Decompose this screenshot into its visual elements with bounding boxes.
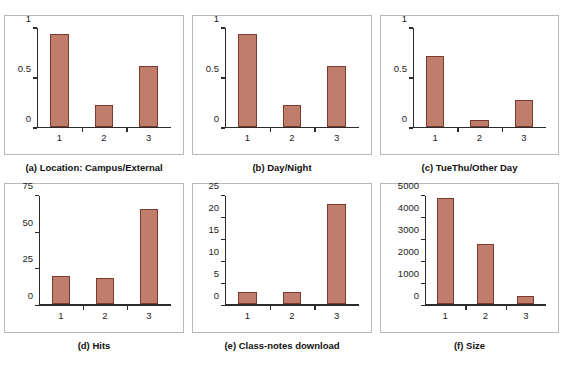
panel-e-ytick-label: 25 bbox=[208, 181, 219, 191]
bar bbox=[327, 66, 346, 127]
panel-d-x-axis bbox=[39, 304, 171, 305]
panel-d-xtick bbox=[83, 306, 84, 310]
panel-e-caption: (e) Class-notes download bbox=[192, 341, 372, 351]
panel-a-xtick bbox=[126, 128, 127, 132]
panel-c-xtick-label: 3 bbox=[521, 133, 526, 143]
panel-c-plot: 00.51123 bbox=[413, 28, 546, 128]
panel-d-ytick-label: 50 bbox=[22, 218, 33, 228]
bar bbox=[437, 198, 454, 304]
panel-a-xtick-label: 3 bbox=[146, 133, 151, 143]
panel-f-ytick-label: 3000 bbox=[398, 225, 419, 235]
panel-f-ytick bbox=[421, 239, 425, 240]
panel-f-xtick-label: 1 bbox=[443, 311, 448, 321]
panel-c-ytick bbox=[409, 127, 413, 128]
panel-f-ytick-label: 2000 bbox=[398, 247, 419, 257]
panel-c-xtick bbox=[502, 128, 503, 132]
panel-c-xtick bbox=[457, 128, 458, 132]
bar bbox=[283, 292, 302, 304]
panel-d-ytick-label: 25 bbox=[22, 255, 33, 265]
panel-b-x-axis bbox=[225, 127, 359, 128]
panel-e-ytick-label: 20 bbox=[208, 203, 219, 213]
panel-c-ytick bbox=[409, 27, 413, 28]
panel-a-ytick-label: 0 bbox=[26, 114, 31, 124]
panel-e-x-axis bbox=[225, 304, 359, 305]
panel-e-plot: 0510152025123 bbox=[225, 196, 359, 306]
panel-d: 0255075123 (d) Hits bbox=[0, 183, 188, 351]
bar bbox=[470, 120, 489, 127]
panel-e-y-axis bbox=[225, 196, 226, 306]
panel-f-y-axis bbox=[425, 196, 426, 306]
panel-e-ytick-label: 10 bbox=[208, 247, 219, 257]
panel-b-xtick-label: 3 bbox=[334, 133, 339, 143]
panel-e-ytick-label: 15 bbox=[208, 225, 219, 235]
bar bbox=[140, 209, 158, 305]
panel-d-xtick bbox=[127, 306, 128, 310]
panel-b-xtick bbox=[314, 128, 315, 132]
panel-e-xtick-label: 3 bbox=[334, 311, 339, 321]
panel-c-y-axis bbox=[413, 28, 414, 128]
bar bbox=[477, 244, 494, 304]
bar bbox=[238, 34, 257, 127]
panel-b-xtick bbox=[270, 128, 271, 132]
panel-f-ytick-label: 0 bbox=[414, 291, 419, 301]
panel-f-xtick bbox=[465, 306, 466, 310]
panel-d-xtick-label: 1 bbox=[58, 311, 63, 321]
panel-f-ytick-label: 5000 bbox=[398, 181, 419, 191]
panel-b-xtick-label: 2 bbox=[289, 133, 294, 143]
panel-f: 010002000300040005000123 (f) Size bbox=[376, 183, 563, 351]
panel-a-y-axis bbox=[37, 28, 38, 128]
bar bbox=[426, 56, 445, 127]
panel-e-xtick-label: 2 bbox=[289, 311, 294, 321]
panel-c-xtick-label: 1 bbox=[433, 133, 438, 143]
panel-e-ytick bbox=[221, 195, 225, 196]
panel-b-ytick bbox=[221, 27, 225, 28]
panel-b: 00.51123 (b) Day/Night bbox=[188, 0, 376, 173]
panel-a-ytick bbox=[33, 127, 37, 128]
panel-e-xtick bbox=[314, 306, 315, 310]
panel-e-ytick-label: 0 bbox=[214, 291, 219, 301]
bar bbox=[139, 66, 158, 127]
bar bbox=[283, 105, 302, 127]
panel-a-ytick-label: 1 bbox=[26, 14, 31, 24]
panel-c-ytick-label: 0 bbox=[402, 114, 407, 124]
panel-e-xtick-label: 1 bbox=[245, 311, 250, 321]
panel-a-xtick bbox=[82, 128, 83, 132]
panel-c-ytick bbox=[409, 77, 413, 78]
panel-d-ytick bbox=[35, 232, 39, 233]
panel-d-frame: 0255075123 bbox=[4, 183, 184, 333]
panel-e-ytick bbox=[221, 305, 225, 306]
panel-d-plot: 0255075123 bbox=[39, 196, 171, 306]
bar bbox=[50, 34, 69, 127]
bar bbox=[238, 292, 257, 304]
panel-e-ytick bbox=[221, 239, 225, 240]
panel-f-ytick-label: 1000 bbox=[398, 269, 419, 279]
bar bbox=[517, 296, 534, 304]
panel-f-ytick bbox=[421, 217, 425, 218]
panel-d-ytick-label: 75 bbox=[22, 181, 33, 191]
panel-e-ytick bbox=[221, 217, 225, 218]
panel-b-ytick bbox=[221, 127, 225, 128]
bar bbox=[96, 278, 114, 304]
panel-f-caption: (f) Size bbox=[380, 341, 559, 351]
bar bbox=[52, 276, 70, 304]
panel-f-frame: 010002000300040005000123 bbox=[380, 183, 559, 333]
panel-a-xtick-label: 1 bbox=[57, 133, 62, 143]
panel-f-plot: 010002000300040005000123 bbox=[425, 196, 546, 306]
panel-a-ytick bbox=[33, 27, 37, 28]
panel-a-plot: 00.51123 bbox=[37, 28, 171, 128]
panel-c-ytick-label: 0.5 bbox=[394, 64, 407, 74]
panel-c-caption: (c) TueThu/Other Day bbox=[380, 163, 559, 173]
panel-b-ytick bbox=[221, 77, 225, 78]
panel-f-ytick bbox=[421, 283, 425, 284]
panel-b-xtick-label: 1 bbox=[245, 133, 250, 143]
panel-row-bottom: 0255075123 (d) Hits 0510152025123 (e) Cl… bbox=[0, 183, 563, 351]
panel-f-xtick-label: 2 bbox=[483, 311, 488, 321]
panel-d-xtick-label: 3 bbox=[146, 311, 151, 321]
panel-c-ytick-label: 1 bbox=[402, 14, 407, 24]
panel-b-ytick-label: 1 bbox=[214, 14, 219, 24]
bar bbox=[327, 204, 346, 304]
panel-b-frame: 00.51123 bbox=[192, 15, 372, 155]
panel-f-ytick-label: 4000 bbox=[398, 203, 419, 213]
panel-a: 00.51123 (a) Location: Campus/External bbox=[0, 0, 188, 173]
panel-d-ytick bbox=[35, 305, 39, 306]
